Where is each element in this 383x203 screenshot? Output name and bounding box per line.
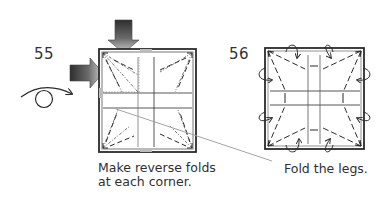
step-56-figure xyxy=(259,45,370,152)
origami-diagram: 55 56 Make reverse folds at each corner.… xyxy=(0,0,383,203)
step-55-caption-line-2: at each corner. xyxy=(98,175,192,189)
step-56-caption: Fold the legs. xyxy=(284,162,368,176)
turn-over-icon xyxy=(21,88,72,108)
step-55-figure xyxy=(21,20,196,152)
push-arrow-right-icon xyxy=(70,58,103,88)
step-number-56: 56 xyxy=(229,47,249,62)
step-55-paper xyxy=(99,49,196,152)
step-55-caption-line-1: Make reverse folds xyxy=(98,161,216,175)
push-arrow-down-icon xyxy=(108,20,139,53)
step-number-55: 55 xyxy=(34,47,54,62)
